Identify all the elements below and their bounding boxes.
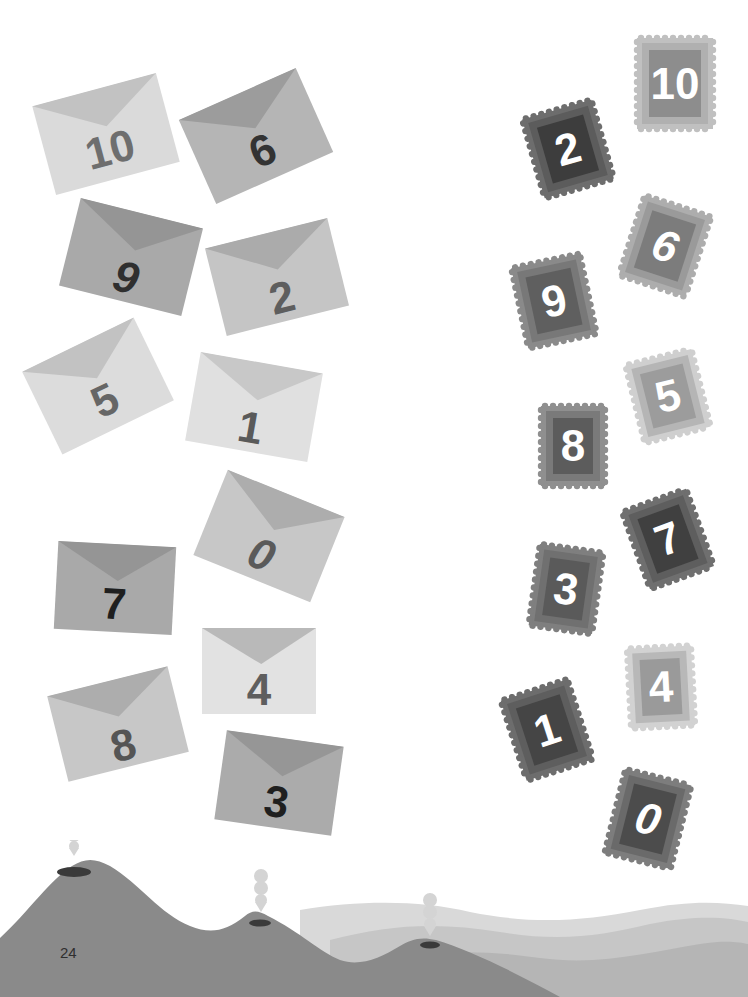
envelope-0[interactable]: 0	[193, 470, 344, 603]
stamp-4[interactable]: 4	[623, 641, 700, 733]
envelope-6[interactable]: 6	[179, 68, 333, 204]
envelope-8[interactable]: 8	[47, 666, 189, 781]
stamp-9[interactable]: 9	[506, 249, 601, 353]
envelope-7[interactable]: 7	[54, 541, 176, 635]
crater-2	[249, 920, 271, 927]
stamp-number: 4	[624, 663, 698, 711]
stamp-2[interactable]: 2	[517, 95, 619, 204]
envelope-10[interactable]: 10	[32, 73, 179, 195]
stamp-1[interactable]: 1	[496, 674, 599, 786]
volcano-landscape	[0, 840, 748, 997]
stamp-7[interactable]: 7	[617, 484, 719, 595]
smoke-plume-2	[254, 869, 268, 912]
envelope-number: 7	[54, 579, 174, 629]
stamp-10[interactable]: 10	[633, 34, 717, 133]
crater-3	[420, 942, 440, 949]
stamp-5[interactable]: 5	[620, 344, 715, 448]
envelope-3[interactable]: 3	[214, 730, 343, 836]
envelope-2[interactable]: 2	[205, 218, 349, 336]
smoke-plume-1	[68, 840, 80, 856]
stamp-3[interactable]: 3	[524, 539, 608, 638]
page-number: 24	[60, 944, 77, 961]
crater-1	[57, 867, 91, 877]
envelope-number: 4	[202, 668, 316, 712]
stamp-6[interactable]: 6	[614, 190, 717, 302]
envelope-5[interactable]: 5	[22, 317, 174, 454]
stamp-number: 10	[633, 62, 717, 106]
envelope-1[interactable]: 1	[185, 352, 323, 462]
stamp-number: 8	[537, 424, 609, 468]
envelope-4[interactable]: 4	[202, 628, 316, 714]
envelope-9[interactable]: 9	[59, 198, 203, 316]
stamp-8[interactable]: 8	[537, 402, 609, 490]
